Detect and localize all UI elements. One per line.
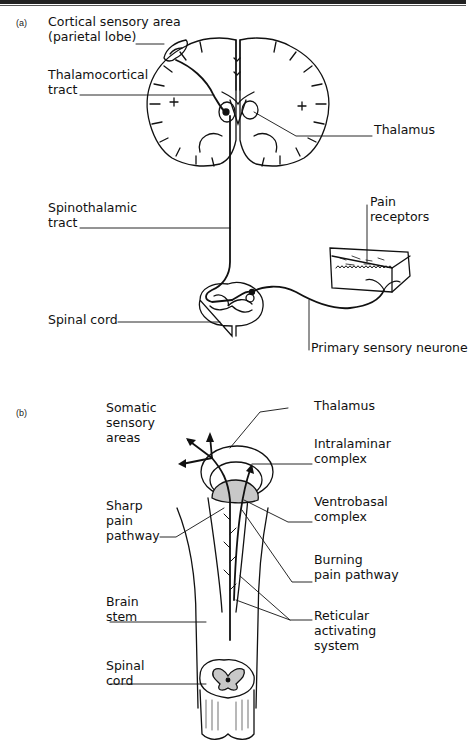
skin-block: [330, 248, 410, 292]
label-cortical-sensory-area: Cortical sensory area (parietal lobe): [48, 14, 181, 44]
pain-pathways: [182, 436, 250, 640]
brain-coronal-section: [147, 38, 329, 166]
ventrobasal-complex: [212, 480, 258, 503]
label-brain-stem: Brain stem: [106, 594, 139, 624]
label-reticular-activating-system: Reticular activating system: [314, 608, 376, 653]
label-intralaminar-complex: Intralaminar complex: [314, 436, 391, 466]
spinal-cord-section-b: [200, 660, 254, 740]
label-spinal-cord-b: Spinal cord: [106, 658, 144, 688]
label-thalamocortical-tract: Thalamocortical tract: [48, 67, 148, 97]
label-thalamus-a: Thalamus: [374, 122, 435, 137]
thalamocortical-tract: [176, 60, 226, 112]
label-somatic-sensory-areas: Somatic sensory areas: [106, 400, 157, 445]
label-primary-sensory-neurone: Primary sensory neurone: [311, 340, 468, 355]
label-spinothalamic-tract: Spinothalamic tract: [48, 200, 137, 230]
panel-a-tag: (a): [16, 18, 27, 28]
label-thalamus-b: Thalamus: [314, 398, 375, 413]
panel-b-tag: (b): [16, 408, 27, 418]
label-sharp-pain-pathway: Sharp pain pathway: [106, 498, 160, 543]
spinothalamic-tract: [206, 116, 232, 302]
label-burning-pain-pathway: Burning pain pathway: [314, 552, 399, 582]
label-spinal-cord-a: Spinal cord: [48, 312, 118, 327]
label-ventrobasal-complex: Ventrobasal complex: [314, 494, 388, 524]
label-pain-receptors: Pain receptors: [370, 194, 429, 224]
